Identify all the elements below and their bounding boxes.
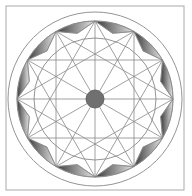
diagram-canvas (0, 0, 192, 196)
rosette-diagram (0, 0, 192, 196)
center-hub (86, 90, 104, 108)
